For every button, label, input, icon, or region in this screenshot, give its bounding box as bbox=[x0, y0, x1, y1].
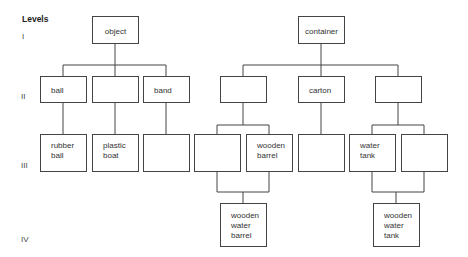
node-wooden-water-tank: wooden water tank bbox=[373, 203, 420, 247]
node-level3-blank-2 bbox=[401, 134, 448, 172]
node-plastic-boat: plastic boat bbox=[92, 134, 139, 172]
node-level3-blank-1 bbox=[194, 134, 241, 172]
node-wooden-barrel: wooden barrel bbox=[246, 134, 293, 172]
node-ball: ball bbox=[40, 76, 87, 103]
level-label-2: II bbox=[21, 92, 25, 101]
node-carton: carton bbox=[298, 76, 345, 103]
node-carton-child-blank bbox=[298, 134, 345, 172]
node-water-tank: water tank bbox=[349, 134, 396, 172]
node-container: container bbox=[298, 16, 345, 44]
level-label-4: IV bbox=[21, 235, 29, 244]
node-container-blank-right bbox=[375, 76, 422, 103]
node-band: band bbox=[143, 76, 190, 103]
node-rubber-ball: rubber ball bbox=[40, 134, 87, 172]
node-wooden-water-barrel: wooden water barrel bbox=[220, 203, 267, 247]
level-label-1: I bbox=[22, 32, 24, 41]
level-label-3: III bbox=[21, 161, 28, 170]
node-object: object bbox=[92, 16, 139, 44]
node-container-blank-left bbox=[220, 76, 267, 103]
levels-title: Levels bbox=[22, 14, 48, 24]
node-object-blank bbox=[92, 76, 139, 103]
node-band-child-blank bbox=[143, 134, 190, 172]
